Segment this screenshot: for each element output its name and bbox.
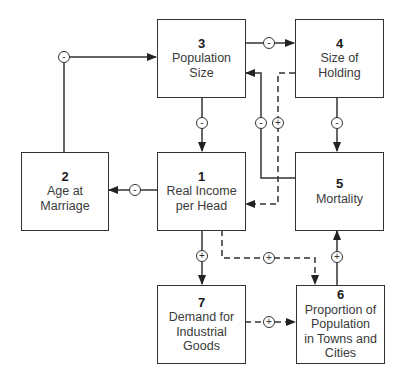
sign-plus-6-5: +: [331, 251, 343, 263]
node-age-at-marriage: 2 Age at Marriage: [21, 152, 109, 231]
node-real-income-per-head: 1 Real Income per Head: [157, 152, 246, 231]
node-label: Population Size: [172, 51, 231, 80]
node-label: Real Income per Head: [166, 184, 236, 213]
node-mortality: 5 Mortality: [295, 152, 384, 231]
edge-5-to-3: [246, 73, 295, 178]
sign-minus-3-1: -: [196, 117, 208, 129]
node-number: 1: [198, 170, 205, 185]
node-number: 6: [337, 288, 344, 303]
node-population-size: 3 Population Size: [157, 19, 246, 98]
node-number: 4: [336, 37, 343, 52]
node-label: Proportion of Population in Towns and Ci…: [304, 303, 377, 361]
node-number: 3: [198, 37, 205, 52]
node-proportion-in-towns: 6 Proportion of Population in Towns and …: [296, 285, 385, 364]
node-label: Size of Holding: [318, 51, 360, 80]
node-label: Age at Marriage: [40, 184, 89, 213]
sign-minus-4-5: -: [331, 117, 343, 129]
sign-plus-1-7: +: [196, 250, 208, 262]
sign-plus-1-6: +: [263, 252, 275, 264]
sign-minus-2-3: -: [58, 51, 70, 63]
edge-4-to-1: [246, 73, 295, 204]
edge-2-to-3: [64, 57, 156, 152]
node-label: Demand for Industrial Goods: [169, 310, 234, 354]
sign-plus-4-1: +: [272, 117, 284, 129]
sign-plus-7-6: +: [263, 316, 275, 328]
node-number: 7: [198, 296, 205, 311]
node-label: Mortality: [316, 192, 363, 207]
sign-minus-3-4: -: [263, 37, 275, 49]
node-demand-for-industrial-goods: 7 Demand for Industrial Goods: [157, 285, 246, 364]
sign-minus-1-2: -: [129, 184, 141, 196]
node-number: 5: [336, 177, 343, 192]
sign-minus-5-3: -: [255, 117, 267, 129]
node-number: 2: [61, 170, 68, 185]
node-size-of-holding: 4 Size of Holding: [295, 19, 384, 98]
